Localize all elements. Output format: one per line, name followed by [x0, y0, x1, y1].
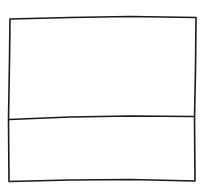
- top-panel: [12, 20, 193, 114]
- bottom-panel: [12, 121, 193, 178]
- wireframe-sketch: [0, 0, 205, 184]
- panel-divider: [9, 116, 195, 120]
